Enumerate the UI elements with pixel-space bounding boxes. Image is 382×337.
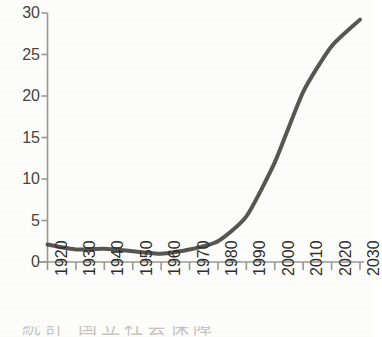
x-tick-label: 1940 xyxy=(110,240,126,276)
x-tick-label: 1930 xyxy=(82,240,98,276)
x-tick-label: 1960 xyxy=(167,240,183,276)
x-tick-label: 1990 xyxy=(252,240,268,276)
x-tick-label: 1920 xyxy=(54,240,70,276)
clipped-caption: 統計 国立社会保障 xyxy=(0,326,374,337)
caption-text: 統計 国立社会保障 xyxy=(22,326,216,337)
x-tick-label: 2000 xyxy=(281,240,297,276)
x-tick-label: 1980 xyxy=(224,240,240,276)
x-tick-label: 1970 xyxy=(196,240,212,276)
x-tick-label: 2020 xyxy=(338,240,354,276)
x-tick-label: 2010 xyxy=(309,240,325,276)
x-tick-label: 1950 xyxy=(139,240,155,276)
x-tick-label: 2030 xyxy=(366,240,382,276)
